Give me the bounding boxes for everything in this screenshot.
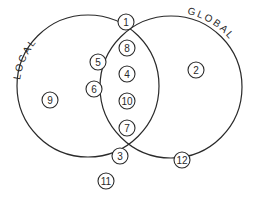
node-11: 11: [98, 173, 114, 189]
node-label: 2: [193, 65, 199, 76]
node-label: 1: [123, 17, 129, 28]
global-set-circle: [100, 16, 242, 158]
node-label: 3: [117, 151, 123, 162]
node-12: 12: [174, 152, 190, 168]
node-label: 11: [101, 176, 112, 187]
node-label: 4: [124, 69, 130, 80]
node-4: 4: [119, 66, 135, 82]
node-label: 6: [91, 84, 97, 95]
node-5: 5: [90, 54, 106, 70]
node-9: 9: [42, 92, 58, 108]
node-8: 8: [119, 40, 135, 56]
node-6: 6: [86, 81, 102, 97]
node-1: 1: [118, 14, 134, 30]
node-label: 8: [124, 43, 130, 54]
node-label: 5: [95, 57, 101, 68]
node-label: 9: [47, 95, 53, 106]
node-3: 3: [112, 148, 128, 164]
node-2: 2: [188, 62, 204, 78]
global-label: GLOBAL: [186, 5, 237, 42]
node-label: 12: [176, 155, 188, 166]
local-label: LOCAL: [11, 36, 39, 81]
node-label: 10: [121, 96, 133, 107]
node-label: 7: [124, 123, 130, 134]
venn-diagram: LOCAL GLOBAL 185461073119212: [0, 0, 258, 199]
node-10: 10: [119, 93, 135, 109]
node-7: 7: [119, 120, 135, 136]
